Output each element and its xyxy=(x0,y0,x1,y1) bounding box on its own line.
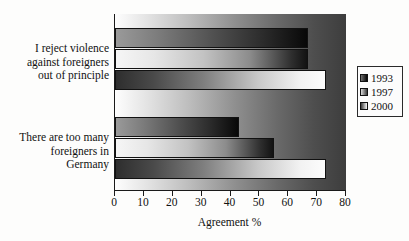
legend: 1993 1997 2000 xyxy=(357,66,403,117)
x-axis: 01020304050607080 xyxy=(114,191,345,213)
series-1997-swatch-icon xyxy=(360,88,368,96)
bar-2000-too-many-foreigners xyxy=(115,159,326,179)
x-axis-title: Agreement % xyxy=(114,216,345,228)
category-label-reject-violence: I reject violence against foreigners out… xyxy=(1,42,109,83)
category-label-line: Germany xyxy=(1,158,109,172)
bar-1993-too-many-foreigners xyxy=(115,117,239,137)
series-1993-swatch-icon xyxy=(360,74,368,82)
category-label-too-many-foreigners: There are too many foreigners in Germany xyxy=(1,131,109,172)
legend-label-1997: 1997 xyxy=(371,86,393,98)
x-tick-label: 70 xyxy=(301,196,331,208)
legend-item-2000: 2000 xyxy=(360,99,399,112)
bar-1993-reject-violence xyxy=(115,28,308,48)
series-2000-swatch-icon xyxy=(360,102,368,110)
category-label-line: against foreigners xyxy=(1,56,109,70)
category-label-line: There are too many xyxy=(1,131,109,145)
x-tick-label: 80 xyxy=(330,196,360,208)
category-label-line: out of principle xyxy=(1,69,109,83)
plot-area xyxy=(114,14,346,191)
legend-label-2000: 2000 xyxy=(371,100,393,112)
x-tick-label: 30 xyxy=(186,196,216,208)
category-label-line: foreigners in xyxy=(1,145,109,159)
x-tick-label: 10 xyxy=(128,196,158,208)
x-tick-label: 20 xyxy=(157,196,187,208)
chart-figure: I reject violence against foreigners out… xyxy=(0,0,409,241)
bar-1997-too-many-foreigners xyxy=(115,138,274,158)
legend-item-1997: 1997 xyxy=(360,85,399,98)
category-label-line: I reject violence xyxy=(1,42,109,56)
bar-2000-reject-violence xyxy=(115,70,326,90)
bar-1997-reject-violence xyxy=(115,49,308,69)
x-tick-label: 40 xyxy=(215,196,245,208)
x-tick-label: 50 xyxy=(243,196,273,208)
x-tick-label: 0 xyxy=(99,196,129,208)
legend-item-1993: 1993 xyxy=(360,71,399,84)
legend-label-1993: 1993 xyxy=(371,72,393,84)
x-tick-label: 60 xyxy=(272,196,302,208)
